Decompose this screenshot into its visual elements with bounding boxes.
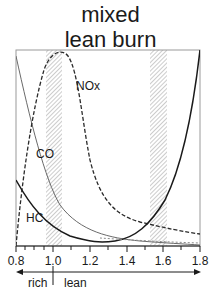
lean-burn-band <box>150 50 167 246</box>
co-label: CO <box>36 147 54 161</box>
nox-label: NOx <box>76 79 100 93</box>
rich-label: rich <box>28 276 47 290</box>
emissions-chart: NOx CO HC 0.8 1.0 1.2 1.4 1.6 1.8 rich l… <box>0 0 221 292</box>
hc-curve <box>16 50 200 242</box>
x-tick-label: 0.8 <box>8 254 25 268</box>
lean-label: lean <box>64 276 87 290</box>
arrow-left-icon <box>16 269 23 275</box>
arrow-right-icon <box>194 269 201 275</box>
x-ticks <box>16 246 200 252</box>
x-tick-label: 1.6 <box>155 254 172 268</box>
x-tick-label: 1.4 <box>119 254 136 268</box>
x-tick-label: 1.8 <box>192 254 209 268</box>
hc-label: HC <box>26 211 44 225</box>
x-tick-label: 1.2 <box>82 254 99 268</box>
x-tick-label: 1.0 <box>45 254 62 268</box>
